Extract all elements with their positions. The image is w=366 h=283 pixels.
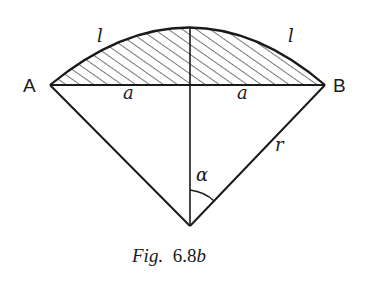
half-chord-left-label: a — [123, 84, 134, 102]
angle-alpha-label: α — [196, 166, 208, 184]
radius-label: r — [275, 136, 284, 154]
half-chord-right-label: a — [237, 84, 248, 102]
arc-l-right-label: l — [288, 27, 294, 45]
radius-right — [190, 85, 325, 226]
caption-suffix: b — [196, 245, 206, 266]
arc-l-left-label: l — [97, 27, 103, 45]
angle-alpha-arc — [190, 190, 214, 201]
radius-left — [50, 85, 190, 226]
caption-prefix: Fig. — [132, 245, 163, 266]
circular-segment-diagram — [0, 0, 366, 283]
figure-caption: Fig. 6.8b — [132, 246, 206, 265]
point-b-label: B — [333, 76, 346, 95]
point-a-label: A — [23, 76, 36, 95]
caption-number: 6.8 — [173, 245, 197, 266]
